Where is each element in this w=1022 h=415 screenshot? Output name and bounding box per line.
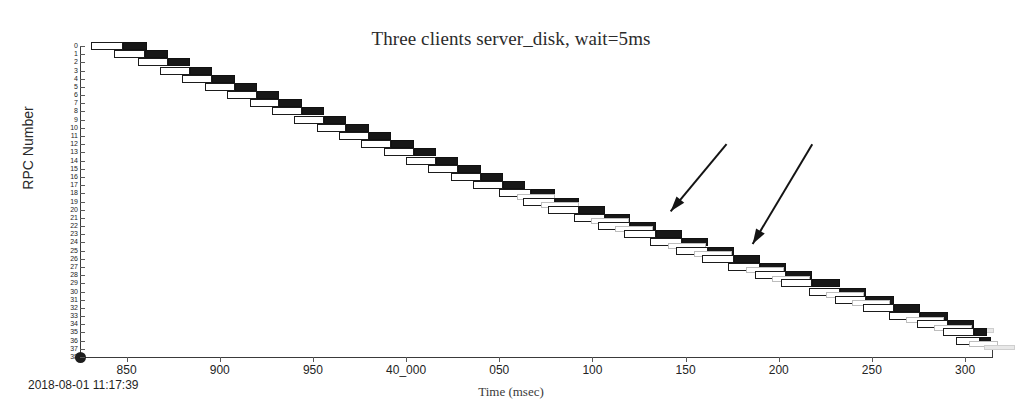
y-tick-label: 12: [54, 140, 78, 147]
rpc-server-bar: [503, 181, 525, 189]
y-tick-label: 5: [54, 83, 78, 90]
rpc-server-bar: [168, 58, 190, 66]
y-tick-label: 10: [54, 124, 78, 131]
rpc-client-bar: [624, 230, 656, 238]
rpc-server-bar: [579, 206, 605, 214]
rpc-client-bar: [702, 255, 734, 263]
rpc-client-bar: [339, 132, 369, 140]
rpc-client-bar: [384, 148, 414, 156]
rpc-server-bar: [734, 255, 760, 263]
rpc-client-bar: [272, 107, 302, 115]
y-tick-label: 3: [54, 67, 78, 74]
y-tick-label: 25: [54, 247, 78, 254]
y-tick-label: 21: [54, 214, 78, 221]
rpc-client-bar: [943, 328, 975, 336]
rpc-client-bar: [160, 67, 190, 75]
y-tick-label: 2: [54, 58, 78, 65]
y-tick-label: 19: [54, 198, 78, 205]
y-tick-label: 34: [54, 320, 78, 327]
y-tick-label: 24: [54, 238, 78, 245]
y-tick-label: 33: [54, 312, 78, 319]
rpc-server-bar: [123, 42, 147, 50]
rpc-client-bar: [451, 173, 481, 181]
y-axis-title: RPC Number: [20, 78, 36, 218]
rpc-server-bar: [190, 67, 212, 75]
rpc-server-bar: [346, 124, 368, 132]
rpc-client-bar: [182, 75, 212, 83]
y-tick-label: 14: [54, 157, 78, 164]
rpc-server-bar: [894, 304, 920, 312]
rpc-client-bar: [548, 206, 580, 214]
rpc-client-bar: [91, 42, 123, 50]
x-tick-label: 100: [582, 363, 602, 377]
y-tick-label: 36: [54, 337, 78, 344]
rpc-client-bar: [317, 124, 347, 132]
y-tick-label: 18: [54, 189, 78, 196]
x-tick-label: 300: [955, 363, 975, 377]
y-tick-label: 29: [54, 279, 78, 286]
rpc-server-bar: [257, 91, 279, 99]
capture-timestamp: 2018-08-01 11:17:39: [28, 378, 139, 392]
x-tick-label: 250: [862, 363, 882, 377]
rpc-client-bar: [114, 50, 146, 58]
y-tick-label: 26: [54, 255, 78, 262]
y-tick-label: 31: [54, 296, 78, 303]
y-tick-label: 38: [54, 353, 78, 360]
rpc-client-bar: [294, 116, 324, 124]
rpc-server-bar: [235, 83, 257, 91]
rpc-client-bar: [863, 304, 895, 312]
rpc-client-bar: [428, 165, 458, 173]
y-axis-tick-labels: 0123456789101112131415161718192021222324…: [54, 0, 78, 415]
rpc-server-bar: [458, 165, 480, 173]
rpc-server-bar: [481, 173, 503, 181]
rpc-client-bar: [138, 58, 168, 66]
y-tick-label: 37: [54, 345, 78, 352]
rpc-client-bar: [406, 157, 436, 165]
rpc-server-bar: [145, 50, 167, 58]
y-tick-label: 20: [54, 206, 78, 213]
x-axis-title: Time (msec): [0, 384, 1022, 400]
y-tick-label: 0: [54, 42, 78, 49]
rpc-client-bar: [227, 91, 257, 99]
x-tick-label: 200: [769, 363, 789, 377]
rpc-server-bar: [369, 132, 391, 140]
y-tick-label: 6: [54, 91, 78, 98]
y-tick-label: 22: [54, 222, 78, 229]
rpc-tertiary-bar: [984, 345, 1015, 350]
y-tick-label: 8: [54, 107, 78, 114]
x-tick-label: 40_000: [386, 363, 426, 377]
rpc-server-bar: [656, 230, 682, 238]
y-tick-label: 9: [54, 116, 78, 123]
rpc-server-bar: [212, 75, 234, 83]
y-tick-label: 17: [54, 181, 78, 188]
x-tick-label: 900: [210, 363, 230, 377]
rpc-server-bar: [302, 107, 324, 115]
rpc-server-bar: [436, 157, 458, 165]
y-tick-label: 15: [54, 165, 78, 172]
rpc-client-bar: [473, 181, 503, 189]
rpc-server-bar: [324, 116, 346, 124]
rpc-server-bar: [391, 140, 413, 148]
x-tick-label: 950: [303, 363, 323, 377]
rpc-client-bar: [781, 279, 813, 287]
x-tick-label: 850: [117, 363, 137, 377]
rpc-server-bar: [279, 99, 301, 107]
y-tick-label: 7: [54, 99, 78, 106]
rpc-client-bar: [250, 99, 280, 107]
rpc-server-bar: [974, 328, 987, 336]
rpc-client-bar: [205, 83, 235, 91]
plot-area: [80, 46, 1000, 358]
y-tick-label: 28: [54, 271, 78, 278]
chart-root: Three clients server_disk, wait=5ms 0123…: [0, 0, 1022, 415]
y-tick-label: 32: [54, 304, 78, 311]
y-tick-label: 35: [54, 328, 78, 335]
rpc-client-bar: [361, 140, 391, 148]
y-tick-label: 23: [54, 230, 78, 237]
y-tick-label: 27: [54, 263, 78, 270]
y-tick-label: 1: [54, 50, 78, 57]
rpc-server-bar: [812, 279, 840, 287]
y-tick-label: 4: [54, 75, 78, 82]
y-tick-label: 13: [54, 148, 78, 155]
y-tick-label: 11: [54, 132, 78, 139]
x-tick-label: 150: [676, 363, 696, 377]
